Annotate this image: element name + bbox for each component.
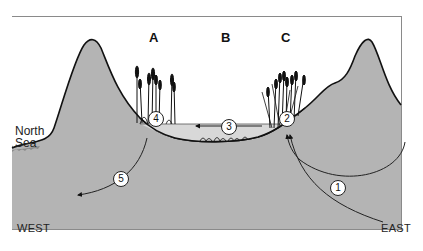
flow-marker-3: 3 bbox=[221, 119, 237, 135]
flow-marker-2: 2 bbox=[279, 111, 295, 127]
flow-marker-5: 5 bbox=[113, 171, 129, 187]
north-sea-label: North Sea bbox=[15, 125, 44, 149]
cross-section-diagram bbox=[0, 0, 423, 251]
north-sea-line2: Sea bbox=[15, 137, 44, 149]
zone-label-b: B bbox=[221, 30, 230, 45]
east-label: EAST bbox=[381, 222, 411, 234]
west-label: WEST bbox=[17, 222, 50, 234]
flow-marker-4: 4 bbox=[148, 111, 164, 127]
flow-marker-1: 1 bbox=[330, 180, 346, 196]
zone-label-a: A bbox=[149, 30, 158, 45]
zone-label-c: C bbox=[281, 30, 290, 45]
